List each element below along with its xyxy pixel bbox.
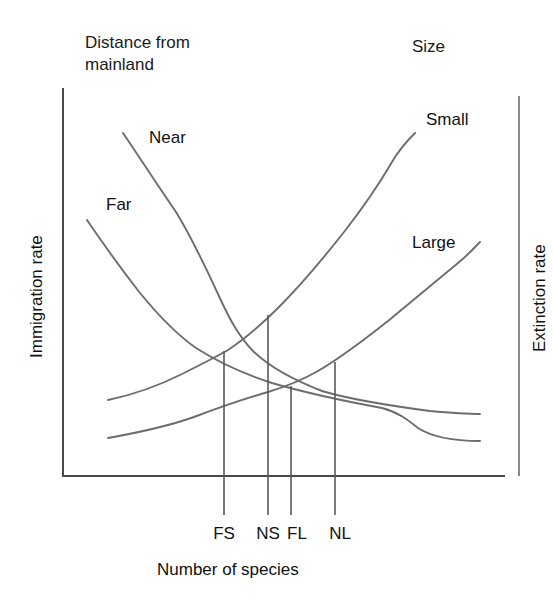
y-axis-left-title: Immigration rate [27,235,46,358]
curve-far [87,220,480,441]
plot-frame [63,88,505,476]
curve-large [108,242,480,438]
tick-label-fl: FL [287,524,307,543]
label-small: Small [426,110,469,129]
tick-label-nl: NL [329,524,351,543]
label-large: Large [412,233,455,252]
distance-heading-line1: Distance from [85,33,190,52]
island-biogeography-chart: Distance from mainland Size Near Far Sma… [0,0,553,614]
y-axis-right-title: Extinction rate [530,244,549,352]
curve-small [108,133,415,400]
label-near: Near [149,128,186,147]
tick-label-ns: NS [256,524,280,543]
figure-container: Distance from mainland Size Near Far Sma… [0,0,553,614]
tick-label-fs: FS [213,524,235,543]
curve-near [123,133,480,414]
size-heading: Size [412,37,445,56]
x-axis-title: Number of species [157,560,299,579]
label-far: Far [106,195,132,214]
distance-heading-line2: mainland [85,55,154,74]
